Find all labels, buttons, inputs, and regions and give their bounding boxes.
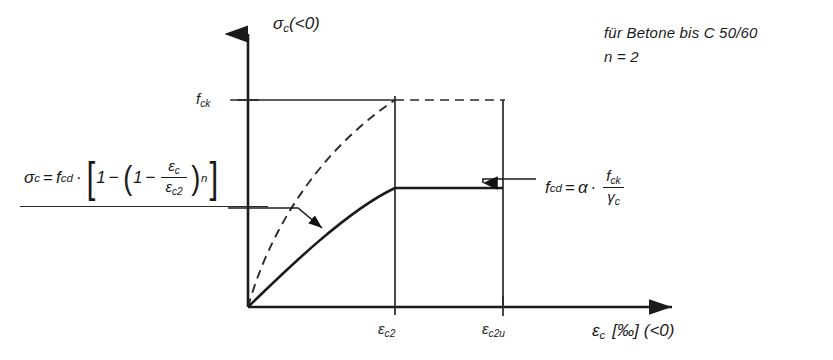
fcd-def-lhs-subscript: cd (550, 182, 562, 194)
formula-num-symbol: ε (168, 157, 175, 174)
characteristic-curve-dashed (248, 100, 395, 307)
formula-exponent: n (201, 172, 207, 184)
formula-den-symbol: ε (165, 178, 172, 195)
fcd-def-dot: · (591, 178, 597, 198)
formula-minus-inner: − (145, 168, 155, 188)
formula-leader-line (228, 208, 322, 228)
fcd-def-equals: = (565, 178, 575, 198)
formula-bracket-close: ] (209, 161, 218, 195)
fcd-def-alpha: α (578, 178, 588, 198)
fcd-definition-formula: fcd = α· fck γc (545, 168, 628, 208)
x-axis-label-unit: [‰] (612, 321, 638, 340)
formula-strain-ratio-fraction: εc εc2 (161, 158, 186, 198)
formula-paren-close: ) (191, 164, 200, 191)
x-axis-label-tail: (<0) (644, 321, 675, 340)
y-axis-label-symbol: σ (273, 14, 283, 33)
fcd-def-den-subscript: c (615, 196, 620, 207)
x-tick-label-epsc2: εc2 (378, 320, 395, 339)
formula-underline (20, 206, 268, 207)
x-axis-label-subscript: c (599, 329, 605, 341)
formula-equals: = (43, 168, 53, 188)
formula-multiply-dot: · (76, 168, 82, 188)
fcd-def-fraction: fck γc (602, 168, 624, 208)
epsc2-symbol: ε (378, 320, 385, 337)
formula-one-outer: 1 (96, 168, 105, 188)
formula-fcd-subscript: cd (61, 172, 73, 184)
y-axis-label-tail: (<0) (289, 14, 320, 33)
note-concrete-class: für Betone bis C 50/60 (604, 24, 758, 41)
formula-bracket-open: [ (86, 161, 95, 195)
formula-fraction-numerator: εc (164, 158, 184, 177)
epsc2u-subscript: c2u (489, 328, 505, 339)
fcd-def-numerator: fck (602, 168, 624, 187)
epsc2-subscript: c2 (385, 328, 396, 339)
formula-paren-open: ( (123, 164, 132, 191)
fcd-def-denominator: γc (603, 187, 624, 207)
formula-lhs-subscript: c (34, 172, 40, 184)
formula-num-subscript: c (175, 165, 180, 176)
fck-subscript: ck (200, 98, 210, 109)
y-tick-label-fck: fck (196, 90, 210, 109)
y-axis-label: σc(<0) (273, 14, 320, 34)
epsc2u-symbol: ε (482, 320, 489, 337)
stress-strain-diagram: σc(<0) fck εc2 εc2u εc[‰](<0) für Betone… (0, 0, 833, 360)
formula-lhs-symbol: σ (24, 168, 34, 188)
formula-fraction-denominator: εc2 (161, 177, 186, 197)
main-formula: σc = fcd · [ 1 − ( 1 − εc εc2 ) n ] (24, 158, 219, 198)
fcd-leader-line (483, 179, 536, 183)
fcd-def-num-subscript: ck (610, 175, 620, 186)
x-axis-label: εc[‰](<0) (592, 321, 674, 341)
fcd-def-den-symbol: γ (607, 188, 615, 205)
formula-minus-outer: − (109, 168, 119, 188)
note-exponent: n = 2 (604, 48, 639, 65)
x-tick-label-epsc2u: εc2u (482, 320, 505, 339)
formula-one-inner: 1 (133, 168, 142, 188)
formula-den-subscript: c2 (172, 186, 183, 197)
